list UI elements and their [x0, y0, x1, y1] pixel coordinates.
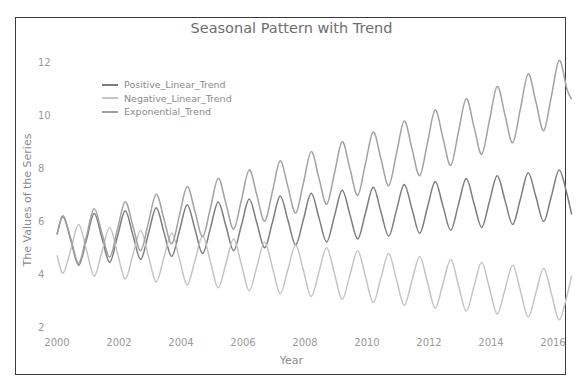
legend-item-positive-linear-trend: Positive_Linear_Trend: [102, 78, 232, 92]
legend-swatch: [102, 111, 118, 113]
legend-item-exponential-trend: Exponential_Trend: [102, 105, 232, 119]
legend-label: Exponential_Trend: [124, 106, 211, 117]
legend-swatch: [102, 97, 118, 99]
legend-label: Negative_Linear_Trend: [124, 93, 232, 104]
plot-area: [0, 0, 583, 389]
legend-item-negative-linear-trend: Negative_Linear_Trend: [102, 92, 232, 106]
legend-label: Positive_Linear_Trend: [124, 79, 226, 90]
legend: Positive_Linear_Trend Negative_Linear_Tr…: [102, 78, 232, 119]
legend-swatch: [102, 84, 118, 86]
